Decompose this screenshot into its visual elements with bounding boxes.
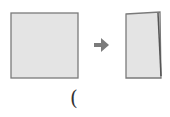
- arrow-right-icon: [94, 38, 109, 52]
- origami-diagram: [0, 0, 170, 117]
- folded-rectangle: [126, 12, 161, 78]
- square-paper: [11, 13, 78, 78]
- caption-parenthesis: (: [70, 88, 78, 108]
